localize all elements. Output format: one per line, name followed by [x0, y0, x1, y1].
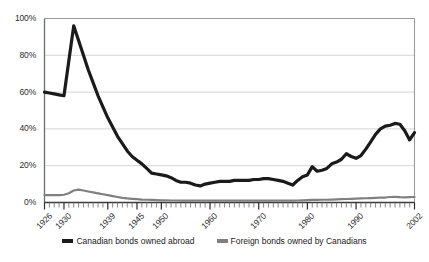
plot-background	[45, 19, 415, 203]
y-axis-tick-label: 40%	[2, 123, 36, 133]
chart-legend: Canadian bonds owned abroadForeign bonds…	[0, 236, 429, 246]
legend-label: Foreign bonds owned by Canadians	[231, 236, 367, 246]
y-axis-tick-label: 100%	[2, 13, 36, 23]
y-axis-tick-label: 0%	[2, 197, 36, 207]
y-axis-tick-label: 80%	[2, 50, 36, 60]
legend-item: Canadian bonds owned abroad	[62, 236, 194, 246]
y-axis-tick-label: 60%	[2, 87, 36, 97]
y-axis-tick-label: 20%	[2, 160, 36, 170]
chart-container: 0%20%40%60%80%100% 192619301939194519501…	[0, 0, 429, 262]
legend-swatch-icon	[62, 239, 73, 243]
legend-item: Foreign bonds owned by Canadians	[217, 236, 367, 246]
legend-label: Canadian bonds owned abroad	[76, 236, 194, 246]
legend-swatch-icon	[217, 239, 228, 243]
